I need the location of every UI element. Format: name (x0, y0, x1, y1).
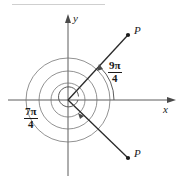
point-upper-label: P (134, 25, 141, 36)
ray-lower (68, 100, 130, 160)
label-seven-pi-over-four: 7π 4 (24, 106, 38, 130)
point-lower-label: P (134, 148, 141, 159)
angle-diagram-svg (0, 0, 183, 182)
figure-canvas: x y P P 9π 4 7π 4 (0, 0, 183, 182)
seven-pi-numerator: 7π (24, 106, 38, 117)
label-nine-pi-over-four: 9π 4 (108, 60, 122, 84)
nine-pi-denominator: 4 (108, 73, 122, 84)
x-axis-label: x (163, 104, 168, 115)
seven-pi-denominator: 4 (24, 119, 38, 130)
y-axis (65, 14, 71, 176)
x-axis (8, 97, 176, 103)
nine-pi-numerator: 9π (108, 60, 122, 71)
y-axis-label: y (73, 13, 78, 24)
